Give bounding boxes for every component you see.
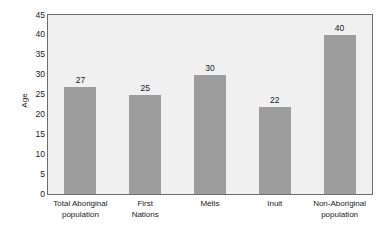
y-axis-tick-label: 10 bbox=[3, 150, 45, 159]
bar-series: 2725302240 bbox=[48, 15, 372, 194]
y-axis-tick-label: 45 bbox=[3, 11, 45, 20]
bar-group: 40 bbox=[307, 15, 372, 194]
bar-group: 27 bbox=[48, 15, 113, 194]
bar-value-label: 30 bbox=[205, 64, 214, 73]
y-axis-tick-label: 25 bbox=[3, 90, 45, 99]
y-axis-tick-label: 15 bbox=[3, 130, 45, 139]
category-label-line: Non-Aboriginal bbox=[295, 199, 384, 210]
y-axis-tick-label: 35 bbox=[3, 50, 45, 59]
bar-group: 25 bbox=[113, 15, 178, 194]
category-label-line: population bbox=[295, 210, 384, 221]
bar-group: 22 bbox=[242, 15, 307, 194]
y-axis-tick-label: 20 bbox=[3, 110, 45, 119]
category-label-line: Nations bbox=[101, 210, 190, 221]
bar bbox=[324, 35, 356, 194]
bar bbox=[194, 75, 226, 194]
bar-value-label: 27 bbox=[76, 76, 85, 85]
y-axis-tick-label: 0 bbox=[3, 190, 45, 199]
x-axis-category-label: Non-Aboriginalpopulation bbox=[295, 199, 384, 220]
bar bbox=[129, 95, 161, 194]
bar bbox=[259, 107, 291, 195]
y-axis-tick-label: 30 bbox=[3, 70, 45, 79]
x-axis-category-labels: Total AboriginalpopulationFirstNationsMé… bbox=[48, 199, 372, 231]
bar bbox=[64, 87, 96, 194]
bar-chart: Age 454035302520151050 2725302240 Total … bbox=[0, 0, 389, 235]
y-axis-tick-label: 40 bbox=[3, 30, 45, 39]
bar-value-label: 22 bbox=[270, 96, 279, 105]
bar-group: 30 bbox=[178, 15, 243, 194]
bar-value-label: 25 bbox=[140, 84, 149, 93]
y-axis-tick-label: 5 bbox=[3, 170, 45, 179]
bar-value-label: 40 bbox=[335, 24, 344, 33]
